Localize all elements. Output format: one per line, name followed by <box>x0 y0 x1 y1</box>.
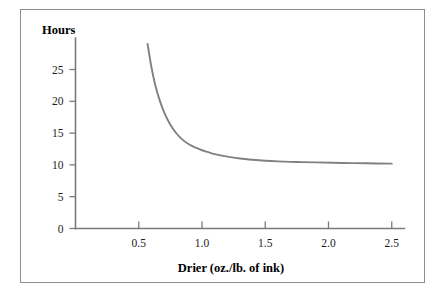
x-tick-label: 0.5 <box>132 237 147 249</box>
x-tick-label: 2.5 <box>385 237 400 249</box>
y-tick-label: 5 <box>58 191 64 203</box>
y-tick-label: 20 <box>52 95 64 107</box>
y-tick-label: 15 <box>52 127 64 139</box>
x-tick-label: 1.0 <box>195 237 210 249</box>
series-line-drying-time <box>148 44 392 164</box>
x-tick-label: 1.5 <box>258 237 273 249</box>
x-tick-label: 2.0 <box>321 237 336 249</box>
x-axis-title: Drier (oz./lb. of ink) <box>178 261 284 275</box>
plot-series-group <box>148 44 392 164</box>
y-tick-group: 0510152025 <box>52 64 76 235</box>
y-tick-label: 25 <box>52 64 64 76</box>
y-tick-label: 10 <box>52 159 64 171</box>
x-axis: 0.51.01.52.02.5 <box>76 222 405 249</box>
line-chart: 0510152025 0.51.01.52.02.5 Hours Drier (… <box>0 0 435 292</box>
x-tick-group: 0.51.01.52.02.5 <box>132 222 400 249</box>
y-tick-label: 0 <box>58 223 64 235</box>
y-axis-title: Hours <box>42 23 75 37</box>
y-axis: 0510152025 <box>52 38 76 235</box>
